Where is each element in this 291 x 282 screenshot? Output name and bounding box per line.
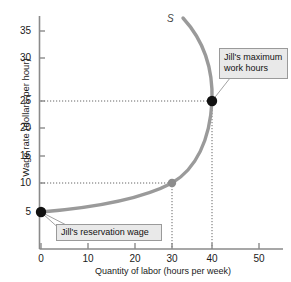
x-tick-label-0: 0 — [30, 253, 52, 264]
reservation-wage-marker — [36, 207, 46, 217]
x-tick-label-40: 40 — [201, 253, 223, 264]
supply-curve-label: S — [167, 13, 174, 24]
x-tick-label-10: 10 — [77, 253, 99, 264]
y-axis-label: Wage rate (dollars per hour) — [20, 43, 31, 193]
x-axis-label: Quantity of labor (hours per week) — [95, 266, 231, 276]
x-tick-label-20: 20 — [124, 253, 146, 264]
y-tick-label-35: 35 — [9, 25, 31, 36]
midpoint-marker — [168, 179, 176, 187]
chart-figure: ... 35 30 — [0, 0, 291, 282]
callout-maximum-work-hours: Jill's maximum work hours — [219, 48, 288, 79]
callout-reservation-wage: Jill's reservation wage — [56, 224, 162, 241]
supply-curve — [41, 18, 212, 212]
x-tick-label-30: 30 — [161, 253, 183, 264]
maximum-work-hours-marker — [207, 96, 217, 106]
y-tick-label-5: 5 — [9, 206, 31, 217]
x-tick-label-50: 50 — [248, 253, 270, 264]
